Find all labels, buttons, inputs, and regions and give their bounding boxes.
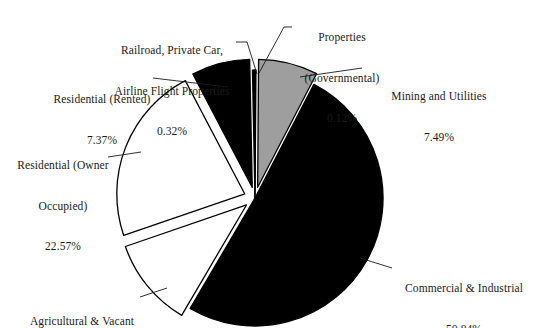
slice-value-commercial: 50.84% — [394, 323, 533, 328]
slice-label-owner-occupied: Residential (Owner Occupied) 22.57% — [8, 132, 118, 281]
slice-label-owner-line2: Occupied) — [8, 200, 118, 214]
slice-label-properties-line1: Properties — [288, 31, 396, 45]
slice-label-agricultural-line1: Agricultural & Vacant — [12, 315, 152, 328]
slice-label-commercial: Commercial & Industrial 50.84% — [394, 255, 533, 328]
slice-label-railroad-line1: Railroad, Private Car, — [96, 44, 248, 58]
pie-chart-figure: Railroad, Private Car, Airline Flight Pr… — [0, 0, 533, 328]
slice-label-mining-line1: Mining and Utilities — [364, 90, 514, 104]
slice-label-commercial-line1: Commercial & Industrial — [394, 282, 533, 296]
slice-label-rented-line1: Residential (Rented) — [36, 93, 168, 107]
slice-value-mining: 7.49% — [364, 131, 514, 145]
pie-slice-railroad[interactable] — [252, 70, 255, 198]
slice-value-owner: 22.57% — [8, 240, 118, 254]
slice-label-owner-line1: Residential (Owner — [8, 159, 118, 173]
slice-label-mining: Mining and Utilities 7.49% — [364, 63, 514, 171]
slice-label-agricultural: Agricultural & Vacant 11.29% — [12, 288, 152, 328]
